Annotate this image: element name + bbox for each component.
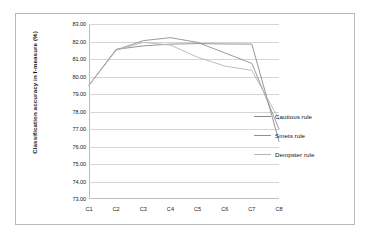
chart-figure: Classification accuracy in f-measure (%)… [0,0,369,239]
legend-line-swatch [254,135,271,136]
x-tick-label: C8 [275,206,282,212]
legend-item[interactable]: Dempster rule [254,145,350,164]
legend-item-label: Dempster rule [275,151,315,158]
legend-line-swatch [254,116,271,117]
y-tick-label: 76.00 [73,144,87,150]
x-tick-label: C6 [221,206,228,212]
chart-legend: Cautious ruleSmets ruleDempster rule [254,107,350,164]
y-tick-label: 83.00 [73,21,87,27]
series-lines [89,24,279,199]
legend-line-swatch [254,154,271,155]
x-tick-label: C4 [167,206,174,212]
series-line [89,44,279,142]
y-tick-label: 74.00 [73,179,87,185]
x-tick-label: C5 [194,206,201,212]
series-line [89,42,279,119]
x-tick-label: C7 [248,206,255,212]
y-tick-label: 78.00 [73,109,87,115]
y-axis-title: Classification accuracy in f-measure (%) [31,13,38,173]
y-tick-label: 77.00 [73,126,87,132]
x-tick-label: C1 [85,206,92,212]
y-tick-label: 79.00 [73,91,87,97]
x-tick-label: C3 [140,206,147,212]
legend-item-label: Smets rule [275,132,305,139]
legend-item[interactable]: Cautious rule [254,107,350,126]
x-tick-label: C2 [113,206,120,212]
y-tick-label: 80.00 [73,74,87,80]
y-tick-label: 81.00 [73,56,87,62]
plot-area: 83.0082.0081.0080.0079.0078.0077.0076.00… [89,24,279,199]
y-tick-label: 75.00 [73,161,87,167]
chart-frame: Classification accuracy in f-measure (%)… [15,13,355,225]
legend-item[interactable]: Smets rule [254,126,350,145]
y-tick-label: 82.00 [73,39,87,45]
y-tick-label: 73.00 [73,196,87,202]
legend-item-label: Cautious rule [275,113,312,120]
